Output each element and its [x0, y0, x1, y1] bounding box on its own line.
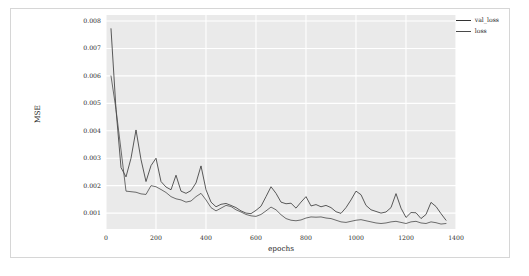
legend-swatch-icon: [456, 31, 471, 32]
chart-legend: val_lossloss: [456, 17, 499, 35]
legend-label: loss: [475, 28, 487, 34]
y-axis-tick-label: 0.004: [83, 128, 101, 134]
series-lines: [106, 15, 456, 229]
plot-area: [106, 15, 456, 229]
y-axis-tick-label: 0.005: [83, 100, 101, 106]
y-axis-tick-label: 0.001: [83, 210, 101, 216]
x-axis-tick-label: 600: [250, 235, 262, 241]
x-axis-tick-label: 0: [104, 235, 108, 241]
x-axis-tick-label: 200: [150, 235, 162, 241]
legend-label: val_loss: [475, 17, 499, 23]
y-axis-tick-label: 0.006: [83, 73, 101, 79]
x-axis-tick-label: 800: [300, 235, 312, 241]
y-axis-label: MSE: [34, 105, 41, 123]
x-axis-tick-label: 400: [200, 235, 212, 241]
x-axis-tick-label: 1400: [448, 235, 464, 241]
legend-item-val_loss[interactable]: val_loss: [456, 17, 499, 24]
y-axis-tick-label: 0.008: [83, 18, 101, 24]
legend-swatch-icon: [456, 20, 471, 21]
x-axis-label: epochs: [106, 245, 456, 252]
series-line-val_loss: [111, 29, 446, 221]
y-axis-tick-label: 0.002: [83, 183, 101, 189]
x-axis-tick-label: 1200: [398, 235, 414, 241]
y-axis-tick-labels: 0.0010.0020.0030.0040.0050.0060.0070.008: [61, 15, 101, 229]
y-axis-tick-label: 0.007: [83, 45, 101, 51]
series-line-loss: [111, 76, 446, 224]
x-axis-tick-label: 1000: [348, 235, 364, 241]
figure-frame: MSE 0.0010.0020.0030.0040.0050.0060.0070…: [10, 8, 510, 258]
y-axis-tick-label: 0.003: [83, 155, 101, 161]
legend-item-loss[interactable]: loss: [456, 28, 499, 35]
